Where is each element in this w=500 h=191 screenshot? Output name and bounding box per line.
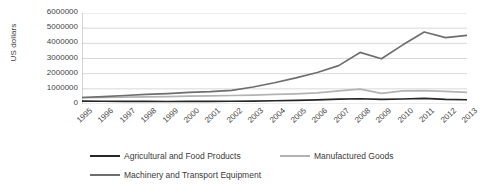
y-axis-tick-label: 2000000 [30,69,78,77]
y-axis-tick-label: 0 [30,99,78,107]
y-axis-tick-label: 5000000 [30,23,78,31]
y-axis-tick-labels: 6000000500000040000003000000200000010000… [30,12,78,104]
legend-label: Agricultural and Food Products [124,151,241,161]
legend-color-swatch [90,155,120,157]
series-line [82,98,467,101]
legend-color-swatch [90,174,120,176]
y-axis-tick-label: 1000000 [30,84,78,92]
legend-label: Manufactured Goods [314,151,393,161]
legend-entry[interactable]: Agricultural and Food Products [90,148,241,164]
y-axis-tick-label: 4000000 [30,38,78,46]
series-line [82,89,467,97]
x-axis-tick-labels: 1995199619971998199920002001200220032004… [82,106,467,140]
plot-svg [82,13,467,104]
line-chart: US dollars 60000005000000400000030000002… [0,0,500,191]
y-axis-tick-label: 3000000 [30,54,78,62]
series-lines [82,32,467,102]
legend-color-swatch [280,155,310,157]
y-axis-tick-label: 6000000 [30,8,78,16]
y-axis-title: US dollars [9,8,18,78]
series-line [82,32,467,98]
legend-entry[interactable]: Machinery and Transport Equipment [90,167,261,183]
plot-area [82,13,467,104]
legend-row: Agricultural and Food ProductsManufactur… [72,148,492,164]
legend-entry[interactable]: Manufactured Goods [280,148,393,164]
legend-label: Machinery and Transport Equipment [124,170,261,180]
chart-legend: Agricultural and Food ProductsManufactur… [72,148,492,186]
legend-row: Machinery and Transport Equipment [72,167,492,183]
